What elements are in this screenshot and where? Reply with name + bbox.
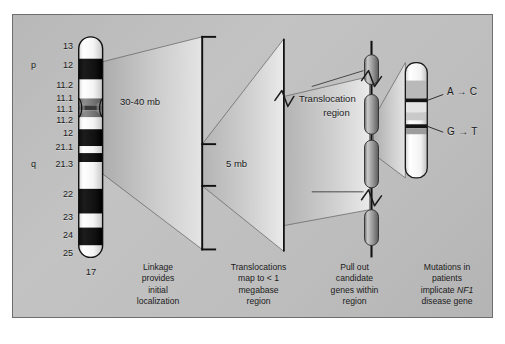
caption-mutations-line2: patients <box>401 273 493 284</box>
mutation1-leader-line <box>427 94 443 100</box>
translocation-region-label-line2: region <box>299 107 374 119</box>
caption-pullout: Pull out candidate genes within region <box>307 262 402 307</box>
mutation-label-a-to-c: A → C <box>447 87 477 97</box>
band-label-13: 13 <box>33 42 73 51</box>
band-label-11-2q: 11.2 <box>33 116 73 125</box>
chromosome-17-ideogram <box>79 37 103 258</box>
band-label-22: 22 <box>33 190 73 199</box>
band-label-12p: 12 <box>33 61 73 70</box>
band-label-24: 24 <box>33 231 73 240</box>
caption-translocations: Translocations map to < 1 megabase regio… <box>211 262 306 307</box>
band-label-21-3: 21.3 <box>33 160 73 169</box>
band-label-11-1p: 11.1 <box>33 94 73 103</box>
figure-panel: p q 13 12 11.2 11.1 11.1 11.2 12 21.1 21… <box>12 14 493 318</box>
gene-name-nf1: NF1 <box>457 285 473 295</box>
fan-translocation-map <box>202 39 284 252</box>
band-label-12q: 12 <box>33 129 73 138</box>
caption-mutations-line4: disease gene <box>401 296 493 307</box>
caption-mutations: Mutations in patients implicate NF1 dise… <box>401 262 493 307</box>
caption-mutations-line3-pre: implicate <box>421 285 457 295</box>
caption-mutations-line3: implicate NF1 <box>401 285 493 296</box>
gene-capsule <box>365 210 379 246</box>
translocation-region-label-line1: Translocation <box>299 93 356 105</box>
band-label-23: 23 <box>33 213 73 222</box>
mutation2-leader-line <box>427 126 443 132</box>
scale-label-30-40mb: 30-40 mb <box>120 97 160 107</box>
band-label-21-1: 21.1 <box>33 143 73 152</box>
band-label-11-1q: 11.1 <box>33 105 73 114</box>
mutation-label-g-to-t: G → T <box>447 127 478 137</box>
gene-capsule <box>365 140 379 188</box>
dna-sequence-bar <box>405 63 443 178</box>
band-label-11-2p: 11.2 <box>33 81 73 90</box>
chromosome-number-label: 17 <box>79 267 103 277</box>
caption-mutations-line1: Mutations in <box>401 262 493 273</box>
fan-linkage <box>103 37 203 250</box>
band-label-25: 25 <box>33 249 73 258</box>
scale-label-5mb: 5 mb <box>226 159 247 169</box>
caption-linkage: Linkage provides initial localization <box>113 262 203 307</box>
